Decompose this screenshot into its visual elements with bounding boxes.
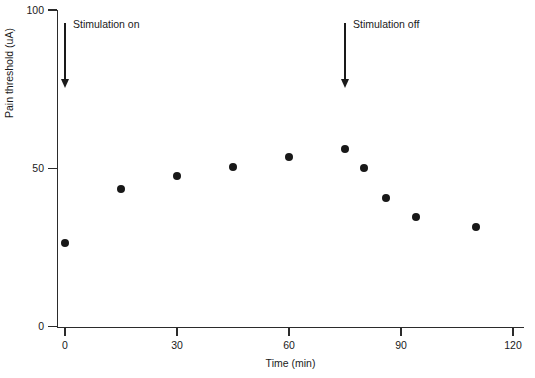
y-tick-100: [48, 9, 57, 10]
x-tick-120: [512, 328, 513, 336]
x-tick-30: [176, 328, 177, 336]
data-point: [472, 223, 480, 231]
data-point: [382, 194, 390, 202]
y-tick-label-50: 50: [0, 163, 44, 174]
x-tick-label-90: 90: [379, 340, 423, 351]
x-axis-title: Time (min): [57, 358, 524, 369]
arrow-down-icon-stimulation-off: [344, 23, 345, 80]
x-tick-label-120: 120: [491, 340, 535, 351]
data-point: [285, 153, 293, 161]
x-tick-label-60: 60: [267, 340, 311, 351]
data-point: [412, 213, 420, 221]
x-axis-line: [57, 327, 524, 328]
data-point: [173, 172, 181, 180]
y-axis-line: [57, 10, 58, 328]
arrow-head-icon-stimulation-on: [61, 79, 69, 88]
data-point: [360, 164, 368, 172]
data-point: [229, 163, 237, 171]
annotation-label-stimulation-on: Stimulation on: [73, 19, 140, 30]
x-tick-60: [288, 328, 289, 336]
x-tick-0: [64, 328, 65, 336]
y-tick-label-100: 100: [0, 5, 44, 16]
chart-figure: 050100 0306090120 Pain threshold (uA) Ti…: [0, 0, 535, 378]
y-tick-label-0: 0: [0, 321, 44, 332]
x-tick-label-0: 0: [43, 340, 87, 351]
arrow-down-icon-stimulation-on: [64, 23, 65, 80]
arrow-head-icon-stimulation-off: [341, 79, 349, 88]
y-axis-title: Pain threshold (uA): [4, 28, 15, 118]
x-tick-90: [400, 328, 401, 336]
data-point: [61, 239, 69, 247]
x-tick-label-30: 30: [155, 340, 199, 351]
y-tick-0: [48, 326, 57, 327]
annotation-label-stimulation-off: Stimulation off: [353, 19, 419, 30]
y-tick-50: [48, 168, 57, 169]
data-point: [341, 145, 349, 153]
data-point: [117, 185, 125, 193]
